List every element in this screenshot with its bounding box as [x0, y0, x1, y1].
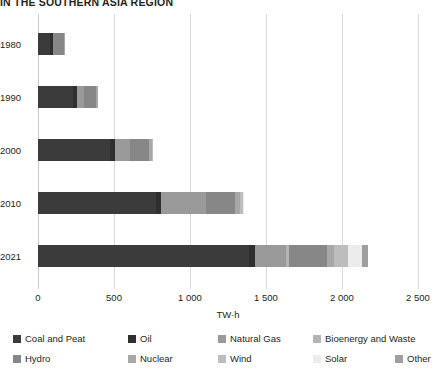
- y-axis-label-1980: 1980: [0, 39, 32, 50]
- bar-row: [38, 245, 368, 267]
- chart-container: IN THE SOUTHERN ASIA REGION 198019902000…: [0, 0, 439, 373]
- bar-segment: [115, 139, 130, 161]
- legend-swatch-icon: [13, 355, 21, 363]
- bar-row: [38, 139, 152, 161]
- bar-segment: [289, 245, 327, 267]
- legend-label: Bioenergy and Waste: [325, 333, 415, 344]
- bar-segment: [38, 86, 73, 108]
- legend-swatch-icon: [128, 355, 136, 363]
- x-axis-tick: 1 500: [254, 292, 278, 303]
- y-axis-label-2021: 2021: [0, 251, 32, 262]
- legend-label: Other: [407, 353, 431, 364]
- y-axis-label-1990: 1990: [0, 92, 32, 103]
- legend-swatch-icon: [395, 355, 403, 363]
- legend-item[interactable]: Oil: [128, 333, 152, 344]
- bar-segment: [38, 192, 156, 214]
- bar-segment: [84, 86, 96, 108]
- chart-title: IN THE SOUTHERN ASIA REGION: [0, 0, 439, 8]
- bar-segment: [255, 245, 286, 267]
- legend-swatch-icon: [313, 335, 321, 343]
- legend-label: Natural Gas: [230, 333, 281, 344]
- bar-segment: [38, 139, 110, 161]
- legend-label: Hydro: [25, 353, 50, 364]
- bar-segment: [362, 245, 367, 267]
- legend-swatch-icon: [128, 335, 136, 343]
- legend-label: Solar: [325, 353, 347, 364]
- bar-segment: [38, 33, 50, 55]
- x-axis-tick: 500: [106, 292, 122, 303]
- bar-segment: [96, 86, 98, 108]
- bar-segment: [130, 139, 149, 161]
- bar-segment: [327, 245, 335, 267]
- gridline: [418, 14, 419, 289]
- legend-swatch-icon: [218, 355, 226, 363]
- bar-segment: [348, 245, 362, 267]
- x-axis-tick: 2 500: [406, 292, 430, 303]
- x-axis-tick: 2 000: [330, 292, 354, 303]
- bar-segment: [38, 245, 249, 267]
- x-axis-title: TW·h: [38, 309, 418, 320]
- legend-label: Wind: [230, 353, 252, 364]
- bar-segment: [334, 245, 348, 267]
- chart-legend: Coal and PeatOilNatural GasBioenergy and…: [0, 331, 439, 373]
- legend-label: Oil: [140, 333, 152, 344]
- bar-segment: [161, 192, 207, 214]
- bar-row: [38, 33, 64, 55]
- legend-item[interactable]: Solar: [313, 353, 347, 364]
- legend-item[interactable]: Bioenergy and Waste: [313, 333, 415, 344]
- bar-row: [38, 86, 98, 108]
- legend-label: Coal and Peat: [25, 333, 85, 344]
- x-axis-tick: 1 000: [178, 292, 202, 303]
- legend-item[interactable]: Other: [395, 353, 431, 364]
- legend-label: Nuclear: [140, 353, 173, 364]
- legend-item[interactable]: Coal and Peat: [13, 333, 85, 344]
- legend-swatch-icon: [13, 335, 21, 343]
- y-axis-label-2010: 2010: [0, 198, 32, 209]
- legend-item[interactable]: Nuclear: [128, 353, 173, 364]
- legend-swatch-icon: [313, 355, 321, 363]
- legend-item[interactable]: Wind: [218, 353, 252, 364]
- bar-segment: [206, 192, 235, 214]
- legend-item[interactable]: Hydro: [13, 353, 50, 364]
- y-axis-label-2000: 2000: [0, 145, 32, 156]
- legend-item[interactable]: Natural Gas: [218, 333, 281, 344]
- legend-swatch-icon: [218, 335, 226, 343]
- bar-row: [38, 192, 244, 214]
- bar-segment: [53, 33, 64, 55]
- bar-segment: [77, 86, 84, 108]
- x-axis-tick: 0: [35, 292, 40, 303]
